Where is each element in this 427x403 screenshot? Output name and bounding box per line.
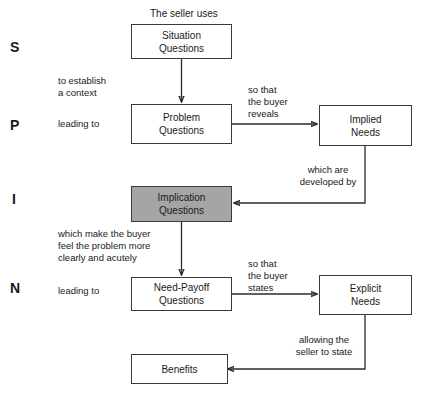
box-implication-line2: Questions: [159, 204, 204, 217]
label-leading-to-need-payoff: leading to: [58, 285, 99, 297]
box-need-payoff-line1: Need-Payoff: [154, 281, 209, 294]
label-so-that-the-buyer-reveals: so that the buyer reveals: [248, 84, 288, 120]
box-situation-line1: Situation: [162, 29, 201, 42]
box-problem-line2: Questions: [159, 124, 204, 137]
stage-letter-n: N: [10, 281, 20, 295]
box-need-payoff-questions[interactable]: Need-Payoff Questions: [131, 277, 232, 311]
label-leading-to-problem: leading to: [58, 118, 99, 130]
box-implied-needs[interactable]: Implied Needs: [319, 105, 412, 146]
label-allowing-the-seller-to-state: allowing the seller to state: [278, 334, 370, 358]
box-benefits[interactable]: Benefits: [131, 354, 228, 384]
box-implied-needs-line2: Needs: [351, 126, 380, 139]
label-which-are-developed-by: which are developed by: [287, 164, 369, 188]
box-situation-questions[interactable]: Situation Questions: [131, 24, 232, 59]
box-explicit-needs-line1: Explicit: [350, 282, 382, 295]
box-problem-questions[interactable]: Problem Questions: [131, 104, 232, 144]
box-situation-line2: Questions: [159, 42, 204, 55]
spin-selling-diagram: The seller uses S P I N Situation Questi…: [0, 0, 427, 403]
label-so-that-the-buyer-states: so that the buyer states: [248, 258, 288, 294]
box-benefits-line1: Benefits: [161, 363, 197, 376]
box-implied-needs-line1: Implied: [349, 113, 381, 126]
box-problem-line1: Problem: [163, 111, 200, 124]
label-which-make-the-buyer-feel: which make the buyer feel the problem mo…: [58, 228, 150, 264]
stage-letter-i: I: [12, 192, 16, 206]
stage-letter-p: P: [10, 118, 19, 132]
box-implication-line1: Implication: [158, 191, 206, 204]
box-need-payoff-line2: Questions: [159, 294, 204, 307]
title-note-seller-uses: The seller uses: [150, 8, 218, 20]
label-to-establish-a-context: to establish a context: [58, 75, 106, 99]
box-implication-questions[interactable]: Implication Questions: [131, 186, 232, 222]
box-explicit-needs[interactable]: Explicit Needs: [319, 275, 412, 315]
stage-letter-s: S: [10, 40, 19, 54]
box-explicit-needs-line2: Needs: [351, 295, 380, 308]
